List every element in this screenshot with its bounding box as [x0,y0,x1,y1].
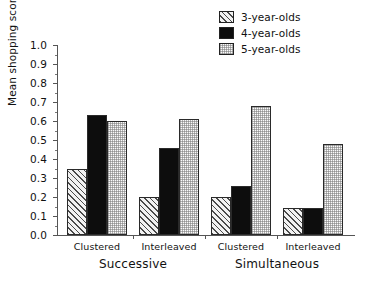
y-tick: 0.9 [53,64,57,65]
y-minor-tick [55,112,57,113]
legend-swatch-hatch-icon [219,11,234,23]
y-minor-tick [55,74,57,75]
y-tick: 0.3 [53,178,57,179]
x-axis-spine [57,235,355,236]
y-tick: 0.5 [53,140,57,141]
x-condition-label: Successive [99,257,167,271]
y-tick-label: 0.0 [30,229,47,241]
y-tick-label: 0.9 [30,58,47,70]
bar [139,197,159,235]
x-group-label: Clustered [74,241,120,252]
y-tick: 0.4 [53,159,57,160]
x-tick [277,235,278,239]
bar [323,144,343,235]
y-tick-label: 0.4 [30,153,47,165]
y-tick: 0.7 [53,102,57,103]
legend-label: 4-year-olds [241,27,301,39]
legend-swatch-solid-icon [219,27,234,39]
y-tick-label: 0.7 [30,96,47,108]
y-tick: 0.1 [53,216,57,217]
bar [231,186,251,235]
bar [179,119,199,235]
bar [87,115,107,235]
legend-label: 3-year-olds [241,11,301,23]
y-tick-label: 0.1 [30,210,47,222]
y-minor-tick [55,207,57,208]
y-tick: 0.6 [53,121,57,122]
y-tick-label: 0.3 [30,172,47,184]
y-tick-label: 0.8 [30,77,47,89]
y-tick-label: 1.0 [30,39,47,51]
legend-item-3-year-olds: 3-year-olds [219,10,301,23]
y-tick: 0.0 [53,235,57,236]
bar [67,169,87,236]
bar [211,197,231,235]
y-minor-tick [55,226,57,227]
y-minor-tick [55,188,57,189]
bar [283,208,303,235]
y-axis-spine [57,45,58,235]
bar-chart-figure: 3-year-olds 4-year-olds 5-year-olds Mean… [0,0,369,293]
y-tick-label: 0.5 [30,134,47,146]
y-axis-title: Mean shopping scores [6,0,18,106]
x-group-label: Clustered [218,241,264,252]
y-tick: 0.8 [53,83,57,84]
legend-item-4-year-olds: 4-year-olds [219,26,301,39]
x-group-label: Interleaved [285,241,340,252]
x-group-label: Interleaved [141,241,196,252]
y-tick: 0.2 [53,197,57,198]
x-tick [205,235,206,239]
y-minor-tick [55,131,57,132]
y-minor-tick [55,55,57,56]
bar [159,148,179,235]
y-tick-label: 0.6 [30,115,47,127]
y-tick-label: 0.2 [30,191,47,203]
bar [251,106,271,235]
bar [107,121,127,235]
y-tick: 1.0 [53,45,57,46]
bar [303,208,323,235]
x-tick [133,235,134,239]
y-minor-tick [55,169,57,170]
y-minor-tick [55,93,57,94]
plot-area: 0.00.10.20.30.40.50.60.70.80.91.0 Cluste… [57,45,355,235]
y-minor-tick [55,150,57,151]
x-condition-label: Simultaneous [235,257,319,271]
